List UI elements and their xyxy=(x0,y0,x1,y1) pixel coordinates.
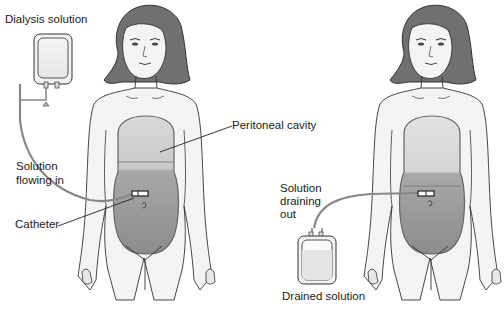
peritoneal-cavity-right xyxy=(400,116,465,254)
label-peritoneal-cavity: Peritoneal cavity xyxy=(232,119,316,132)
left-figure xyxy=(20,5,232,300)
label-solution-flowing-in-line1: Solution xyxy=(16,160,58,173)
peritoneal-cavity-left xyxy=(114,116,179,254)
catheter-left xyxy=(132,191,148,196)
peritoneal-dialysis-illustration xyxy=(0,0,504,312)
label-solution-draining-line1: Solution xyxy=(280,182,322,195)
label-drained-solution: Drained solution xyxy=(282,290,365,303)
right-figure xyxy=(298,5,501,300)
label-solution-draining-line2: draining xyxy=(280,195,321,208)
drained-solution-bag xyxy=(298,228,336,284)
dialysis-solution-bag xyxy=(20,34,72,106)
label-solution-flowing-in-line2: flowing in xyxy=(16,174,64,187)
label-solution-draining-line3: out xyxy=(280,208,296,221)
label-catheter: Catheter xyxy=(15,218,59,231)
label-dialysis-solution: Dialysis solution xyxy=(5,13,87,26)
